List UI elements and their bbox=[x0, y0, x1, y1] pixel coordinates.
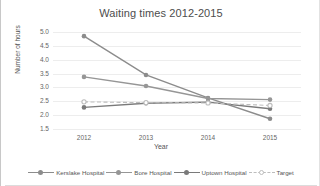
x-axis-label: Year bbox=[1, 143, 320, 150]
legend-label: Kerslake Hospital bbox=[56, 169, 104, 176]
data-point bbox=[206, 101, 210, 105]
legend-item[interactable]: Uptown Hospital bbox=[173, 168, 248, 177]
legend-label: Target bbox=[277, 169, 294, 176]
legend-item[interactable]: Bore Hospital bbox=[105, 168, 172, 177]
legend-swatch-icon bbox=[28, 168, 54, 177]
y-tick-label: 1.5 bbox=[21, 126, 49, 133]
legend-swatch-icon bbox=[249, 168, 275, 177]
y-tick-label: 4.0 bbox=[21, 57, 49, 64]
legend-label: Bore Hospital bbox=[134, 169, 171, 176]
chart-legend: Kerslake HospitalBore HospitalUptown Hos… bbox=[1, 168, 320, 177]
data-point bbox=[268, 103, 272, 107]
y-tick-label: 2.0 bbox=[21, 112, 49, 119]
legend-swatch-icon bbox=[106, 168, 132, 177]
legend-item[interactable]: Target bbox=[248, 168, 295, 177]
bottom-divider bbox=[5, 185, 317, 186]
data-point bbox=[268, 116, 273, 121]
x-tick-label: 2013 bbox=[139, 134, 153, 141]
series-line bbox=[84, 77, 270, 100]
plot-area: 5.04.54.03.53.02.52.01.5 201220132014201… bbox=[53, 32, 301, 129]
data-point bbox=[144, 101, 148, 105]
legend-swatch-icon bbox=[174, 168, 200, 177]
legend-label: Uptown Hospital bbox=[202, 169, 247, 176]
data-point bbox=[82, 105, 87, 110]
y-tick-label: 3.0 bbox=[21, 84, 49, 91]
legend-item[interactable]: Kerslake Hospital bbox=[27, 168, 105, 177]
chart-frame: Waiting times 2012-2015 Number of hours … bbox=[0, 0, 320, 186]
data-point bbox=[82, 75, 87, 80]
y-tick-label: 4.5 bbox=[21, 43, 49, 50]
data-point bbox=[82, 100, 86, 104]
y-tick-label: 3.5 bbox=[21, 71, 49, 78]
x-tick-label: 2012 bbox=[77, 134, 91, 141]
data-point bbox=[144, 73, 149, 78]
x-tick-label: 2014 bbox=[201, 134, 215, 141]
y-axis-label: Number of hours bbox=[14, 0, 21, 105]
x-tick-label: 2015 bbox=[263, 134, 277, 141]
data-point bbox=[144, 84, 149, 89]
y-tick-label: 5.0 bbox=[21, 29, 49, 36]
y-tick-label: 2.5 bbox=[21, 98, 49, 105]
chart-title: Waiting times 2012-2015 bbox=[1, 7, 320, 19]
gridline bbox=[53, 129, 301, 130]
data-point bbox=[268, 97, 273, 102]
data-point bbox=[82, 34, 87, 39]
series-lines bbox=[53, 32, 301, 129]
